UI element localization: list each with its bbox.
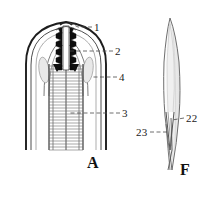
- figure-letter-a: A: [87, 155, 99, 171]
- label-2: 2: [115, 46, 121, 57]
- label-1: 1: [94, 22, 100, 33]
- label-4: 4: [119, 72, 125, 83]
- label-22: 22: [186, 113, 197, 124]
- plate-artwork: [0, 0, 204, 200]
- stylet-channel: [63, 26, 69, 70]
- figure-f-spicule-drawing: [164, 18, 180, 170]
- illustration-plate: 1 2 4 3 22 23 A F: [0, 0, 204, 200]
- label-3: 3: [122, 108, 128, 119]
- figure-a-head-drawing: [26, 22, 106, 150]
- figure-letter-f: F: [180, 162, 190, 178]
- label-23: 23: [136, 127, 147, 138]
